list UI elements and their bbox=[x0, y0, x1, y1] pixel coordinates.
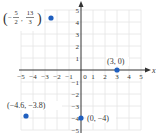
x-tick-labels: −5 −4 −3 −2 −1 0 1 2 3 4 5 bbox=[17, 73, 143, 81]
svg-text:,: , bbox=[21, 15, 23, 23]
svg-text:5: 5 bbox=[76, 7, 80, 15]
svg-text:1: 1 bbox=[76, 55, 80, 63]
svg-text:3: 3 bbox=[28, 18, 31, 25]
svg-text:): ) bbox=[37, 11, 42, 27]
svg-text:5: 5 bbox=[139, 73, 143, 81]
x-axis-arrow-icon bbox=[145, 68, 151, 73]
point-label-3: (−4.6, −3.8) bbox=[7, 101, 46, 110]
svg-text:5: 5 bbox=[14, 9, 17, 16]
svg-text:2: 2 bbox=[103, 73, 107, 81]
svg-text:2: 2 bbox=[14, 18, 17, 25]
point-neg4.6-neg3.8 bbox=[23, 113, 28, 118]
point-3-0 bbox=[114, 67, 119, 72]
y-axis-arrow-icon bbox=[79, 1, 84, 7]
y-tick-labels: 5 4 3 2 1 −1 −2 −3 −4 −5 bbox=[72, 7, 80, 135]
svg-text:4: 4 bbox=[127, 73, 131, 81]
svg-text:−4: −4 bbox=[72, 115, 80, 123]
svg-text:−3: −3 bbox=[72, 103, 80, 111]
svg-text:−3: −3 bbox=[41, 73, 49, 81]
svg-text:3: 3 bbox=[76, 31, 80, 39]
svg-text:−2: −2 bbox=[53, 73, 61, 81]
svg-text:1: 1 bbox=[91, 73, 95, 81]
svg-text:−: − bbox=[8, 14, 12, 22]
point-label-2: (3, 0) bbox=[107, 57, 125, 66]
svg-text:4: 4 bbox=[76, 19, 80, 27]
svg-text:−2: −2 bbox=[72, 91, 80, 99]
svg-text:−5: −5 bbox=[17, 73, 25, 81]
svg-text:−5: −5 bbox=[72, 127, 80, 135]
x-axis-label: x bbox=[151, 66, 156, 75]
svg-text:13: 13 bbox=[27, 9, 34, 16]
svg-text:−1: −1 bbox=[72, 79, 80, 87]
svg-text:0: 0 bbox=[83, 73, 87, 81]
svg-text:−4: −4 bbox=[29, 73, 37, 81]
svg-text:3: 3 bbox=[115, 73, 119, 81]
point-0-neg4 bbox=[78, 115, 83, 120]
svg-text:2: 2 bbox=[76, 43, 80, 51]
point-label-1: ( − 5 2 , 13 3 ) bbox=[2, 7, 44, 31]
point-neg5-2-13-3 bbox=[48, 15, 53, 20]
coordinate-plane: x −5 −4 −3 −2 −1 0 1 2 3 4 5 5 4 3 2 1 −… bbox=[0, 0, 157, 138]
point-label-4: (0, −4) bbox=[87, 114, 109, 123]
